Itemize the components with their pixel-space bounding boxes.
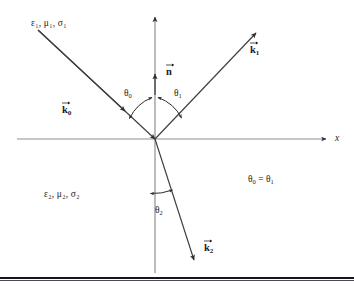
theta1-glyph: θ <box>174 88 179 98</box>
x-axis-label: x <box>335 134 339 144</box>
incident-vector-label: k 0 <box>62 104 71 116</box>
reflected-vector-glyph: k <box>250 44 256 55</box>
axes-group <box>17 17 326 273</box>
vector-overbar-arrow-icon <box>166 63 175 67</box>
relation-sub-left: 0 <box>253 178 256 185</box>
angle-arc-theta0 <box>130 98 153 119</box>
vector-overbar-arrow-icon <box>250 41 259 45</box>
lower-medium-label: ε₂, μ₂, σ₂ <box>44 190 80 200</box>
incident-ray <box>38 30 155 139</box>
transmitted-vector-label: k 2 <box>204 242 213 254</box>
diagram-canvas: ε₁, μ₁, σ₁ ε₂, μ₂, σ₂ n k 0 k <box>0 0 354 286</box>
incident-vector-subscript: 0 <box>68 109 72 117</box>
vector-overbar-arrow-icon <box>204 239 213 243</box>
page-edge-band-shadow <box>0 280 354 281</box>
angle-label-theta0: θ0 <box>124 89 132 99</box>
incident-vector-glyph: k <box>62 104 68 115</box>
upper-medium-label: ε₁, μ₁, σ₁ <box>31 19 67 29</box>
angle-label-theta2: θ2 <box>155 206 163 216</box>
angle-arc-theta2 <box>151 190 173 194</box>
angle-label-theta1: θ1 <box>174 89 182 99</box>
transmitted-ray <box>155 139 194 260</box>
transmitted-vector-subscript: 2 <box>210 247 214 255</box>
theta2-glyph: θ <box>155 205 160 215</box>
wave-interface-diagram <box>0 0 354 286</box>
reflected-vector-label: k 1 <box>250 44 259 56</box>
reflected-ray <box>155 33 256 139</box>
relation-theta-left: θ <box>248 174 253 184</box>
theta2-subscript: 2 <box>160 209 163 216</box>
theta0-glyph: θ <box>124 88 129 98</box>
transmitted-vector-glyph: k <box>204 242 210 253</box>
theta1-subscript: 1 <box>179 92 182 99</box>
vector-overbar-arrow-icon <box>62 101 71 105</box>
theta0-subscript: 0 <box>129 92 132 99</box>
relation-equals: = θ <box>256 174 271 184</box>
relation-sub-right: 1 <box>270 178 273 185</box>
normal-vector-label: n <box>166 66 172 78</box>
angle-relation-label: θ0 = θ1 <box>248 175 274 185</box>
normal-vector-glyph: n <box>166 66 172 77</box>
reflected-vector-subscript: 1 <box>256 49 260 57</box>
